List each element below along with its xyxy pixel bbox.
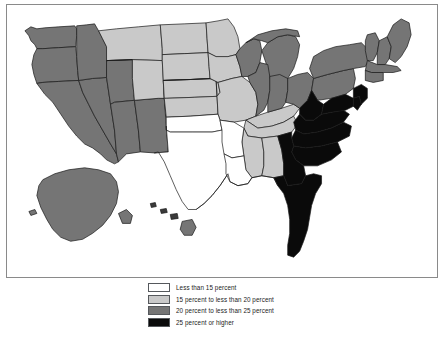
state-arkansas	[220, 120, 244, 158]
state-hawaii-oahu	[160, 209, 167, 214]
state-north-dakota	[160, 23, 208, 55]
state-minnesota	[206, 19, 240, 57]
state-oklahoma	[166, 114, 222, 132]
legend-item-1: 15 percent to less than 20 percent	[148, 294, 368, 305]
state-hawaii-big-island	[180, 219, 196, 235]
state-maine	[387, 19, 411, 63]
legend-swatch-less-than-15	[148, 283, 170, 292]
legend-item-0: Less than 15 percent	[148, 282, 368, 293]
state-hawaii-kauai	[150, 203, 156, 208]
state-indiana	[268, 74, 288, 112]
state-nebraska	[163, 78, 220, 98]
legend-swatch-25-or-higher	[148, 318, 170, 327]
state-washington	[25, 26, 77, 49]
state-utah	[107, 60, 135, 105]
legend-item-3: 25 percent or higher	[148, 317, 368, 328]
legend-label-less-than-15: Less than 15 percent	[176, 283, 236, 292]
state-oregon	[32, 47, 79, 84]
legend-swatch-20-to-25	[148, 306, 170, 315]
map-legend: Less than 15 percent 15 percent to less …	[148, 282, 368, 338]
state-hawaii-maui	[170, 213, 178, 219]
state-alaska-aleutians	[29, 209, 37, 215]
legend-swatch-15-to-20	[148, 295, 170, 304]
legend-label-20-to-25: 20 percent to less than 25 percent	[176, 306, 274, 315]
state-connecticut	[365, 71, 383, 83]
legend-label-25-or-higher: 25 percent or higher	[176, 318, 234, 327]
us-choropleth-map	[7, 5, 437, 277]
state-south-dakota	[162, 53, 210, 81]
state-montana	[99, 25, 163, 61]
state-alaska	[37, 168, 119, 241]
state-alaska-panhandle	[118, 209, 132, 223]
map-frame	[6, 4, 438, 278]
choropleth-figure: Less than 15 percent 15 percent to less …	[0, 0, 446, 342]
legend-label-15-to-20: 15 percent to less than 20 percent	[176, 295, 274, 304]
state-kansas	[164, 96, 218, 117]
state-new-mexico	[134, 98, 168, 153]
legend-item-2: 20 percent to less than 25 percent	[148, 305, 368, 316]
state-florida	[274, 174, 322, 257]
